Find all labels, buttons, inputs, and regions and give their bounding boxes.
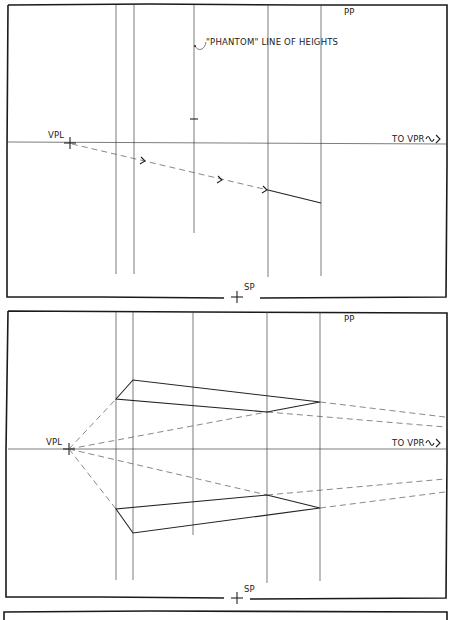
panel-1-frame <box>7 4 447 298</box>
phantom-annotation: "PHANTOM" LINE OF HEIGHTS <box>206 37 338 47</box>
construction-line <box>320 492 445 508</box>
construction-line <box>267 479 445 495</box>
pp-label: PP <box>344 314 355 324</box>
arrow-icon <box>217 176 222 183</box>
upper-plane <box>116 380 320 412</box>
leader-curl-icon <box>195 42 206 49</box>
squiggle-arrow-icon <box>426 135 440 143</box>
vpl-label: VPL <box>46 437 62 447</box>
squiggle-arrow-icon <box>426 439 440 447</box>
sp-label: SP <box>244 584 255 594</box>
pp-label: PP <box>344 7 355 17</box>
leader-dot <box>194 45 196 47</box>
vanishing-line-solid <box>268 190 321 203</box>
sp-label: SP <box>244 282 255 292</box>
sp-cross-icon <box>231 291 243 303</box>
vpl-cross-icon <box>64 137 76 149</box>
panel-2: PP VPL TO VPR SP <box>6 311 447 604</box>
construction-line <box>267 412 445 427</box>
perspective-diagram: "PHANTOM" LINE OF HEIGHTS PP VPL TO VPR … <box>0 0 456 620</box>
lower-plane <box>116 495 320 533</box>
arrow-icon <box>262 186 267 193</box>
vpr-label: TO VPR <box>391 438 425 448</box>
vanishing-line-dashed <box>72 144 268 190</box>
panel-1: "PHANTOM" LINE OF HEIGHTS PP VPL TO VPR … <box>7 4 447 303</box>
panel-2-frame <box>6 311 447 599</box>
vpl-label: VPL <box>48 130 64 140</box>
sp-cross-icon <box>231 592 243 604</box>
panel-3-frame <box>4 611 447 620</box>
construction-line <box>320 402 445 417</box>
construction-line <box>69 449 267 495</box>
vpr-label: TO VPR <box>391 134 425 144</box>
